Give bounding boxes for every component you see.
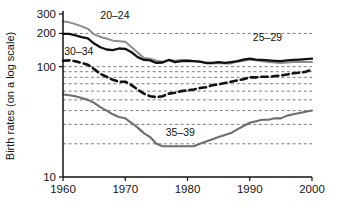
series-label-35-39: 35–39 — [166, 126, 195, 138]
series-label-30-34: 30–34 — [64, 45, 93, 57]
chart-container: 10100200300 19601970198019902000 20–2425… — [0, 0, 338, 208]
x-tick-label-2000: 2000 — [299, 183, 325, 195]
y-tick-label-200: 200 — [37, 27, 56, 39]
x-tick-label-1980: 1980 — [175, 183, 201, 195]
y-axis-title: Birth rates (on a log scale) — [4, 32, 16, 160]
x-tick-label-1990: 1990 — [237, 183, 263, 195]
y-tick-label-300: 300 — [37, 8, 56, 20]
x-tick-label-1960: 1960 — [50, 183, 76, 195]
y-tick-label-100: 100 — [37, 61, 56, 73]
birth-rates-line-chart: 10100200300 19601970198019902000 20–2425… — [0, 0, 338, 208]
x-tick-label-1970: 1970 — [112, 183, 138, 195]
y-tick-label-10: 10 — [43, 171, 56, 183]
series-label-20-24: 20–24 — [100, 9, 129, 21]
series-label-25-29: 25–29 — [253, 31, 282, 43]
